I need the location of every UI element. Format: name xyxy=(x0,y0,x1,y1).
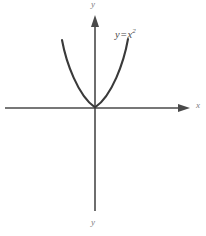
parabola-figure: y y x y=x2 xyxy=(0,0,206,236)
curve-equation-variable: y xyxy=(115,29,120,40)
curve-equation-exponent: 2 xyxy=(132,27,136,35)
graph-canvas xyxy=(0,0,206,236)
y-axis-bottom-label: y xyxy=(91,218,95,227)
curve-equation-operator: = xyxy=(120,29,128,40)
curve-equation-label: y=x2 xyxy=(115,28,136,40)
x-axis-arrowhead xyxy=(178,104,190,112)
y-axis-top-label: y xyxy=(91,0,95,9)
x-axis-right-label: x xyxy=(196,101,200,110)
y-axis-arrowhead xyxy=(91,15,99,27)
